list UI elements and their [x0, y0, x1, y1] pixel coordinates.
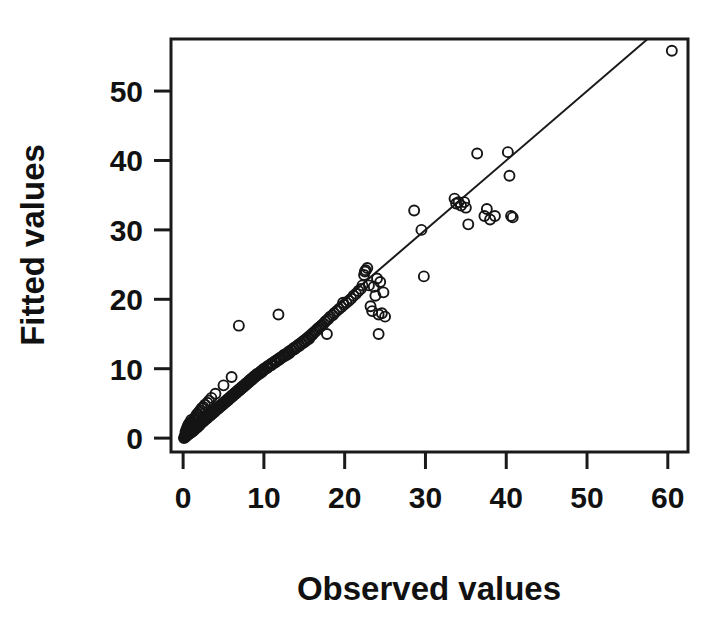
scatter-plot-figure: 0102030405060 01020304050 Observed value… — [0, 0, 718, 628]
scatter-point — [219, 380, 229, 390]
scatter-point — [227, 372, 237, 382]
y-tick-label: 50 — [110, 75, 143, 108]
scatter-point — [234, 321, 244, 331]
scatter-point — [374, 329, 384, 339]
x-tick-label: 30 — [409, 481, 442, 514]
scatter-point — [322, 329, 332, 339]
x-tick-label: 10 — [247, 481, 280, 514]
y-tick-label: 20 — [110, 283, 143, 316]
scatter-point — [463, 219, 473, 229]
x-tick-label: 50 — [570, 481, 603, 514]
y-tick-label: 0 — [126, 422, 143, 455]
scatter-point — [504, 171, 514, 181]
y-axis-title: Fitted values — [14, 144, 51, 346]
y-tick-label: 40 — [110, 144, 143, 177]
y-tick-label: 30 — [110, 214, 143, 247]
plot-canvas: 0102030405060 01020304050 Observed value… — [0, 0, 718, 628]
x-tick-label: 20 — [328, 481, 361, 514]
scatter-point — [503, 147, 513, 157]
scatter-point — [667, 46, 677, 56]
y-axis-ticks — [154, 91, 171, 438]
scatter-point — [409, 205, 419, 215]
x-tick-label: 0 — [175, 481, 192, 514]
x-axis-ticks — [183, 452, 668, 469]
x-axis-title: Observed values — [297, 570, 561, 607]
y-axis-tick-labels: 01020304050 — [110, 75, 143, 455]
scatter-point — [273, 310, 283, 320]
scatter-points — [179, 46, 677, 443]
x-tick-label: 60 — [651, 481, 684, 514]
y-tick-label: 10 — [110, 353, 143, 386]
x-tick-label: 40 — [490, 481, 523, 514]
scatter-point — [472, 149, 482, 159]
scatter-point — [419, 271, 429, 281]
x-axis-tick-labels: 0102030405060 — [175, 481, 685, 514]
